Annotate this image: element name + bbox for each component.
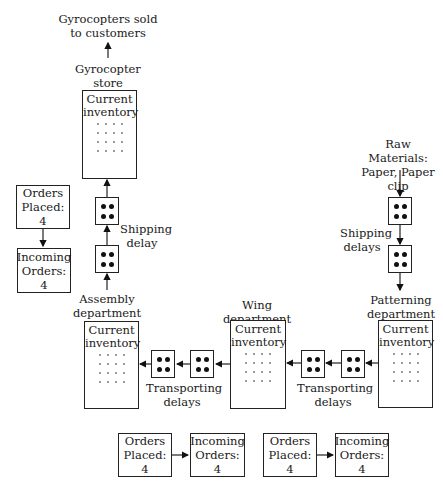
incoming-orders-box: Incoming Orders: 4 (17, 248, 71, 293)
orders-placed-box: Orders Placed: 4 (263, 433, 317, 477)
transport-delay-label: Transporting delays (146, 381, 218, 409)
shipping-delays-label: Shipping delays (340, 226, 384, 254)
transport-delay-box (151, 350, 175, 378)
incoming-orders-box: Incoming Orders: 4 (335, 433, 389, 477)
inventory-units (83, 123, 136, 152)
shipping-delay-label: Shipping delay (120, 222, 164, 250)
orders-placed-box: Orders Placed: 4 (118, 433, 172, 477)
assembly-label: Assembly department (68, 292, 146, 320)
inventory-title: Current inventory (83, 93, 136, 119)
patterning-label: Patterning department (364, 293, 438, 321)
inventory-title: Current inventory (231, 323, 285, 349)
inventory-title: Current inventory (85, 324, 138, 350)
store-label: Gyrocopter store (68, 62, 148, 90)
transport-delay-label: Transporting delays (297, 381, 369, 409)
transport-delay-box (301, 350, 325, 378)
inventory-units (379, 353, 432, 382)
inventory-units (231, 353, 285, 382)
shipping-delay-box (95, 197, 119, 225)
shipping-delay-box (388, 245, 412, 273)
orders-placed-box: Orders Placed: 4 (16, 185, 70, 229)
patterning-inventory-box: Current inventory (378, 320, 433, 408)
transport-delay-box (341, 350, 365, 378)
sink-label: Gyrocopters sold to customers (58, 12, 158, 40)
wing-inventory-box: Current inventory (230, 320, 286, 409)
raw-materials-label: Raw Materials: Paper, Paper clip (358, 137, 438, 193)
shipping-delay-box (388, 197, 412, 225)
inventory-units (85, 354, 138, 383)
inventory-title: Current inventory (379, 323, 432, 349)
transport-delay-box (190, 350, 214, 378)
store-inventory-box: Current inventory (82, 90, 137, 179)
assembly-inventory-box: Current inventory (84, 321, 139, 409)
shipping-delay-box (95, 245, 119, 273)
incoming-orders-box: Incoming Orders: 4 (190, 433, 245, 477)
